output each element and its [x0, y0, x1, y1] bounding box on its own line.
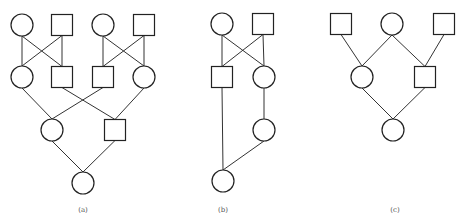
- edge-a6-a10: [62, 88, 115, 120]
- square-node-c3: [434, 14, 455, 35]
- panel-a-label: (a): [78, 206, 88, 214]
- edge-b2-b4: [263, 35, 264, 67]
- panel-c-label: (c): [390, 206, 400, 214]
- square-node-a2: [52, 15, 73, 36]
- circle-node-a1: [11, 14, 33, 36]
- circle-node-c2: [381, 13, 403, 35]
- circle-node-b1: [211, 13, 233, 35]
- edge-b3-b6: [222, 88, 223, 171]
- edge-b5-b6: [223, 141, 264, 170]
- circle-node-b4: [253, 66, 275, 88]
- square-node-a6: [52, 67, 73, 88]
- edge-c2-c4: [362, 35, 392, 66]
- panel-b-label: (b): [218, 206, 228, 214]
- circle-node-a5: [11, 66, 33, 88]
- edge-c5-c6: [393, 88, 425, 120]
- labels-layer: (a) (b) (c): [78, 206, 400, 214]
- circle-node-a8: [133, 66, 155, 88]
- edge-c4-c6: [362, 88, 393, 119]
- circle-node-c6: [382, 119, 404, 141]
- square-node-a7: [93, 67, 114, 88]
- edge-c3-c5: [425, 35, 444, 67]
- square-node-c5: [415, 67, 436, 88]
- edge-a9-a11: [52, 141, 83, 172]
- circle-node-c4: [351, 66, 373, 88]
- edge-c2-c5: [392, 35, 425, 67]
- square-node-a4: [134, 15, 155, 36]
- pedigree-diagram: (a) (b) (c): [0, 0, 466, 223]
- edge-a7-a9: [52, 88, 103, 120]
- edge-a5-a9: [22, 88, 52, 119]
- square-node-a10: [105, 120, 126, 141]
- circle-node-a3: [92, 14, 114, 36]
- square-node-b3: [212, 67, 233, 88]
- edges-layer: [22, 35, 444, 173]
- circle-node-b5: [253, 119, 275, 141]
- circle-node-a9: [41, 119, 63, 141]
- circle-node-b6: [212, 170, 234, 192]
- circle-node-a11: [72, 172, 94, 194]
- edge-a8-a10: [115, 88, 144, 120]
- square-node-c1: [331, 14, 352, 35]
- edge-a10-a11: [83, 141, 115, 173]
- edge-c1-c4: [341, 35, 362, 67]
- square-node-b2: [253, 14, 274, 35]
